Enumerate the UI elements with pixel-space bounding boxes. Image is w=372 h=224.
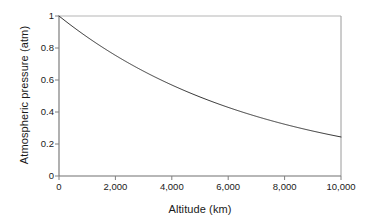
x-tick-label: 0	[29, 182, 89, 192]
x-tick-label: 8,000	[255, 182, 315, 192]
x-tick-marks	[59, 176, 341, 180]
chart-figure: Atmospheric pressure (atm) 1 0.8 0.6 0.4…	[0, 0, 372, 224]
x-axis-title: Altitude (km)	[59, 203, 341, 215]
y-tick-marks	[55, 16, 59, 176]
plot-background	[59, 16, 341, 176]
x-tick-label: 6,000	[198, 182, 258, 192]
x-tick-label: 10,000	[311, 182, 371, 192]
x-tick-label-group: 0 2,000 4,000 6,000 8,000 10,000	[0, 182, 372, 196]
x-tick-label: 2,000	[85, 182, 145, 192]
x-tick-label: 4,000	[142, 182, 202, 192]
